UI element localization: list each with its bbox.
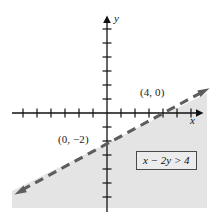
inequality-graph-figure: (4, 0) (0, −2) y x x − 2y > 4 bbox=[0, 0, 216, 216]
y-axis-label: y bbox=[114, 12, 119, 24]
inequality-label-box: x − 2y > 4 bbox=[136, 151, 197, 170]
point-label-y-intercept: (0, −2) bbox=[58, 133, 89, 145]
coordinate-plane-svg bbox=[0, 0, 216, 216]
point-label-x-intercept: (4, 0) bbox=[140, 86, 164, 98]
x-axis-label: x bbox=[190, 114, 195, 126]
